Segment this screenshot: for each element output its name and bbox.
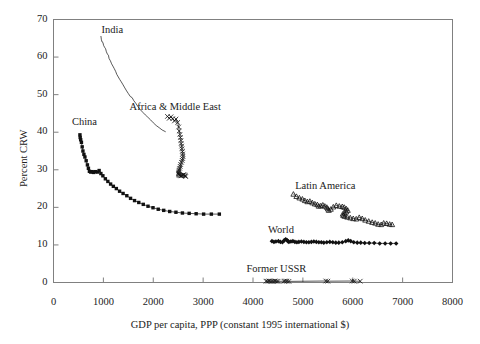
series-india: [101, 36, 166, 132]
series-africa-middle-east: [165, 114, 188, 179]
x-tick-label: 0: [40, 296, 68, 307]
x-tick-label: 2000: [139, 296, 167, 307]
axis-ticks: [54, 20, 403, 283]
x-tick-label: 1000: [89, 296, 117, 307]
series-latin-america: [291, 192, 395, 227]
series-label-china: China: [72, 116, 97, 127]
x-tick-label: 8000: [439, 296, 467, 307]
y-tick-label: 50: [22, 88, 48, 99]
x-tick-label: 4000: [239, 296, 267, 307]
x-tick-label: 5000: [289, 296, 317, 307]
y-tick-label: 20: [22, 200, 48, 211]
series-label-world: World: [268, 224, 294, 235]
chart-figure: 010002000300040005000600070008000 010203…: [0, 0, 480, 344]
y-tick-label: 60: [22, 50, 48, 61]
scatter-plot-canvas: [0, 0, 480, 344]
x-tick-label: 3000: [189, 296, 217, 307]
series-label-former-ussr: Former USSR: [247, 263, 307, 274]
x-tick-label: 7000: [389, 296, 417, 307]
series-label-africa-middle-east: Africa & Middle East: [130, 101, 221, 112]
data-series-group: [78, 36, 398, 284]
y-tick-label: 70: [22, 13, 48, 24]
x-axis-title: GDP per capita, PPP (constant 1995 inter…: [0, 319, 480, 330]
series-label-latin-america: Latin America: [295, 180, 355, 191]
y-tick-label: 0: [22, 276, 48, 287]
y-tick-label: 10: [22, 238, 48, 249]
series-label-india: India: [102, 24, 124, 35]
series-world: [270, 237, 399, 246]
y-axis-title: Percent CRW: [18, 130, 29, 187]
x-tick-label: 6000: [339, 296, 367, 307]
series-china: [78, 133, 221, 216]
